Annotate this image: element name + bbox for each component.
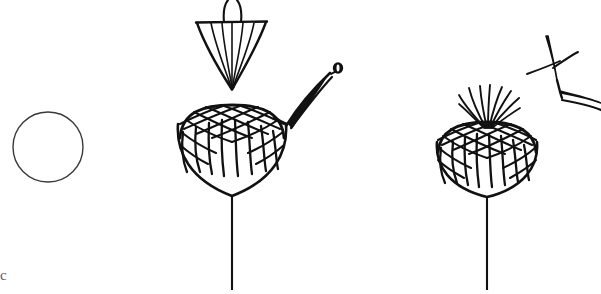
figure-canvas: c — [0, 0, 601, 294]
drawing-surface — [0, 0, 601, 294]
cone-top-bar — [196, 22, 267, 23]
corner-mark: c — [0, 268, 7, 283]
leaf-blade-bead-highlight — [337, 65, 340, 72]
canvas-background — [0, 0, 601, 294]
